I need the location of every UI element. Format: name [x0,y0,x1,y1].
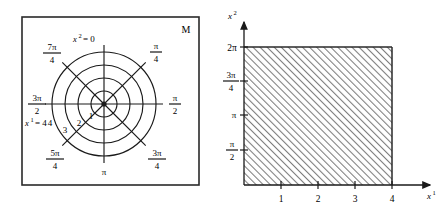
radial-axis-sup: 1 [31,116,34,123]
angle-pi4-den: 4 [154,54,159,64]
y-3pi4-num: 3π [226,70,236,80]
radial-label-2: 2 [77,118,82,128]
x-axis-label: x 1 [426,189,436,201]
radial-label-1: 1 [89,111,94,121]
radial-axis-label: x 1 = 4 [24,116,47,128]
angle-5pi4-num: 5π [50,148,60,158]
angle-pi-whole: π [102,167,107,177]
x-tick-label-2: 2 [316,194,321,204]
angle-3pi2-den: 2 [35,106,40,116]
polar-origin-dot [101,101,106,106]
angle-5pi4-den: 4 [53,161,58,171]
y-tick-label-2pi: 2π [227,43,237,53]
angle-pi2-num: π [173,93,178,103]
manifold-label-M: M [182,24,191,35]
angular-origin-eq: = 0 [83,34,95,44]
angular-origin-sup: 2 [79,32,82,39]
y-axis-label: x 2 [227,9,237,21]
y-pi2-num: π [230,139,235,149]
angle-3pi4-den: 4 [155,161,160,171]
angle-pi4-num: π [154,41,159,51]
x-tick-label-4: 4 [390,194,395,204]
radial-axis-text: x [24,118,29,128]
x-axis-label-base: x [426,191,431,201]
radial-axis-eq: = 4 [35,118,47,128]
x-tick-label-3: 3 [353,194,358,204]
y-3pi4-den: 4 [229,83,234,93]
angle-7pi4-num: 7π [47,42,57,52]
y-axis-label-base: x [227,11,232,21]
y-tick-label-pi-over-2: π 2 [226,139,238,162]
angle-pi2-den: 2 [173,106,178,116]
radial-label-3: 3 [63,125,68,135]
figure-canvas: M x 2 = 0 x 1 = 4 1 2 3 4 π 4 [0,0,444,214]
panel-polar-manifold: M x 2 = 0 x 1 = 4 1 2 3 4 π 4 [22,17,199,185]
y-tick-label-pi: π [232,110,237,120]
y-tick-label-3pi-over-4: 3π 4 [223,70,239,93]
angular-origin-label: x 2 = 0 [72,32,95,44]
radial-label-4: 4 [48,118,53,128]
y-axis-label-sup: 2 [234,9,237,16]
angle-3pi4-num: 3π [152,148,162,158]
panel-parameter-domain: 1 2 3 4 π 2 π 3π 4 [223,9,436,204]
shaded-region [244,47,392,185]
y-pi2-den: 2 [230,152,235,162]
angle-3pi2-num: 3π [32,93,42,103]
angular-origin-text: x [72,34,77,44]
angle-7pi4-den: 4 [50,55,55,65]
x-axis-label-sup: 1 [433,189,436,196]
x-tick-label-1: 1 [279,194,284,204]
two-panel-figure: M x 2 = 0 x 1 = 4 1 2 3 4 π 4 [0,0,444,214]
